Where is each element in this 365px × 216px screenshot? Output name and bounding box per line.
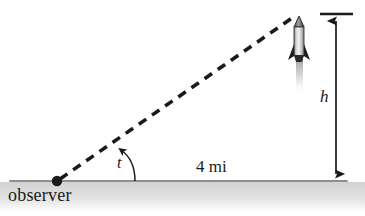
base-distance-label: 4 mi	[196, 157, 227, 177]
rocket-icon	[288, 16, 310, 62]
angle-arc-icon	[121, 150, 135, 181]
dashed-line-of-sight-icon	[60, 18, 292, 179]
exhaust-plume-icon	[296, 58, 303, 96]
diagram-canvas	[0, 0, 365, 216]
observer-label: observer	[8, 185, 72, 206]
height-label: h	[320, 87, 329, 107]
rocket-elevation-diagram: observer 4 mi h t	[0, 0, 365, 216]
angle-label: t	[117, 154, 121, 172]
